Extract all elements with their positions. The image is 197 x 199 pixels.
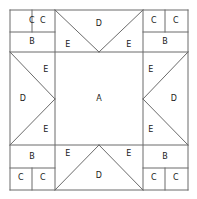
seam-line-top-diag-right: [99, 10, 143, 52]
quilt-block-diagram: ACCBCCBBCCBCCDEEDEEDEEDEE: [0, 0, 197, 199]
seam-line-bottom-diag-right: [99, 145, 143, 190]
quilt-block-svg: [0, 0, 197, 199]
seam-line-left-diag-top: [10, 52, 55, 99]
seam-line-right-diag-top: [143, 52, 188, 99]
seam-line-right-diag-bottom: [143, 99, 188, 145]
seam-line-layer: [10, 10, 188, 190]
seam-line-left-diag-bottom: [10, 99, 55, 145]
seam-line-bottom-diag-left: [55, 145, 99, 190]
seam-line-top-diag-left: [55, 10, 99, 52]
